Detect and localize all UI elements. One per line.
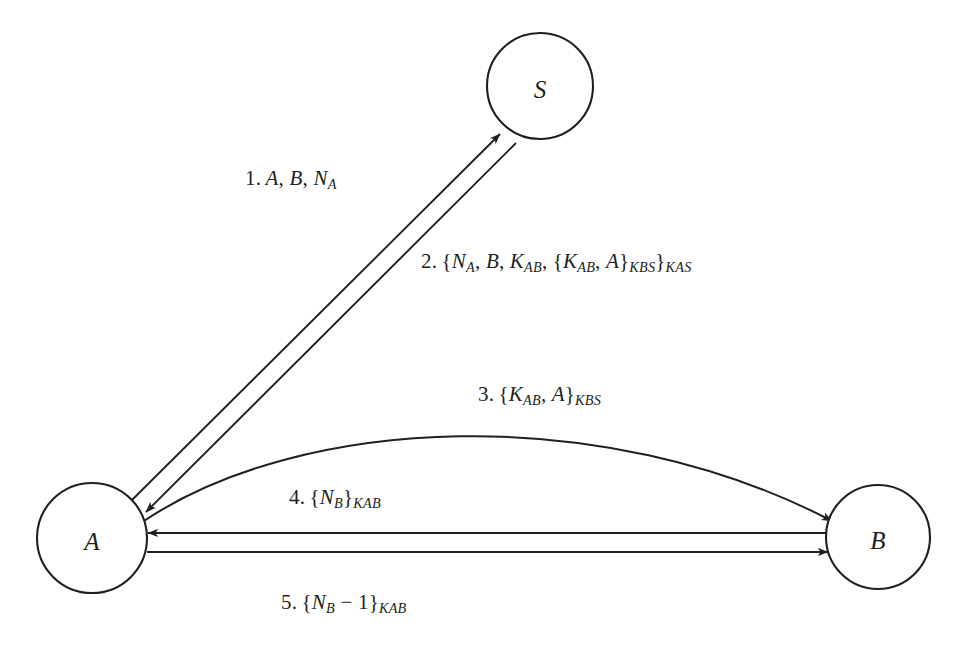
edge-message-2	[146, 143, 516, 512]
message-label-4: 4. {NB}KAB	[289, 485, 381, 510]
message-label-3: 3. {KAB, A}KBS	[478, 382, 601, 407]
protocol-diagram: S A B 1. A, B, NA 2. {NA, B, KAB, {KAB, …	[0, 0, 965, 651]
edge-message-3	[144, 436, 832, 521]
diagram-canvas	[0, 0, 965, 651]
message-label-5: 5. {NB − 1}KAB	[281, 590, 406, 615]
message-label-2: 2. {NA, B, KAB, {KAB, A}KBS}KAS	[421, 249, 692, 274]
node-label-s: S	[534, 76, 547, 104]
node-label-b: B	[870, 527, 885, 555]
message-label-1: 1. A, B, NA	[245, 166, 337, 191]
node-label-a: A	[84, 528, 99, 556]
